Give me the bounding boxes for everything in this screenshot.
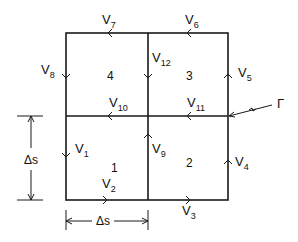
label-v9: V9: [152, 141, 166, 159]
label-v5: V5: [238, 65, 252, 83]
vertical-dimension: Δs: [17, 116, 43, 200]
cell-1: 1: [111, 161, 118, 175]
label-v6: V6: [185, 12, 199, 30]
dim-horizontal-label: Δs: [96, 214, 110, 228]
grid-lines: [66, 33, 228, 200]
label-v2: V2: [102, 176, 116, 194]
label-v4: V4: [235, 154, 249, 172]
cell-2: 2: [186, 156, 193, 170]
horizontal-dimension: Δs: [66, 210, 148, 230]
label-v12: V12: [152, 50, 171, 68]
cell-4: 4: [107, 69, 114, 83]
boundary-leader-line: [229, 105, 272, 116]
dim-vertical-label: Δs: [24, 153, 38, 167]
label-v8: V8: [41, 62, 55, 80]
cell-3: 3: [186, 69, 193, 83]
grid-diagram: V7 V6 V8 V12 V5 V10 V11 V1 V9 V4 V2 V3 4…: [0, 0, 298, 242]
cell-labels: 4 3 1 2: [107, 69, 193, 175]
label-v3: V3: [182, 203, 196, 221]
label-v1: V1: [75, 141, 89, 159]
label-v10: V10: [109, 95, 128, 113]
label-v11: V11: [187, 95, 205, 113]
label-v7: V7: [102, 12, 116, 30]
boundary-pointer: Γ: [229, 96, 284, 117]
boundary-label: Γ: [277, 96, 284, 111]
